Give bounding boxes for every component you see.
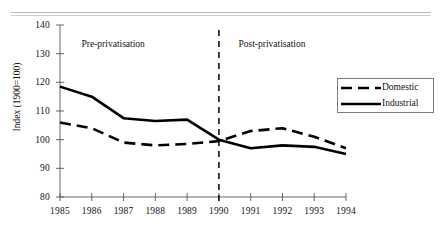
plot-canvas [0, 0, 442, 236]
legend-item-domestic: Domestic [338, 80, 433, 96]
legend-swatch-dashed-icon [341, 86, 381, 89]
y-tick-label: 90 [24, 163, 50, 173]
y-tick-label: 100 [24, 135, 50, 145]
series-group [60, 87, 346, 154]
axes-group [56, 25, 346, 201]
series-line-domestic [60, 122, 346, 148]
series-line-industrial [60, 87, 346, 154]
chart-legend: Domestic Industrial [337, 78, 434, 113]
legend-swatch-solid-icon [341, 102, 381, 105]
y-axis-title: Index (1900=100) [12, 42, 22, 152]
line-chart: 8090100110120130140 19851986198719881989… [0, 0, 442, 236]
legend-label-industrial: Industrial [382, 98, 418, 108]
annotation-pre-privatisation: Pre-privatisation [82, 39, 145, 49]
legend-label-domestic: Domestic [382, 82, 418, 92]
y-tick-label: 130 [24, 49, 50, 59]
y-tick-label: 80 [24, 192, 50, 202]
y-tick-label: 120 [24, 77, 50, 87]
legend-item-industrial: Industrial [338, 96, 433, 112]
y-tick-label: 110 [24, 106, 50, 116]
y-tick-label: 140 [24, 20, 50, 30]
annotation-post-privatisation: Post-privatisation [238, 39, 305, 49]
x-tick-label: 1994 [326, 206, 366, 216]
